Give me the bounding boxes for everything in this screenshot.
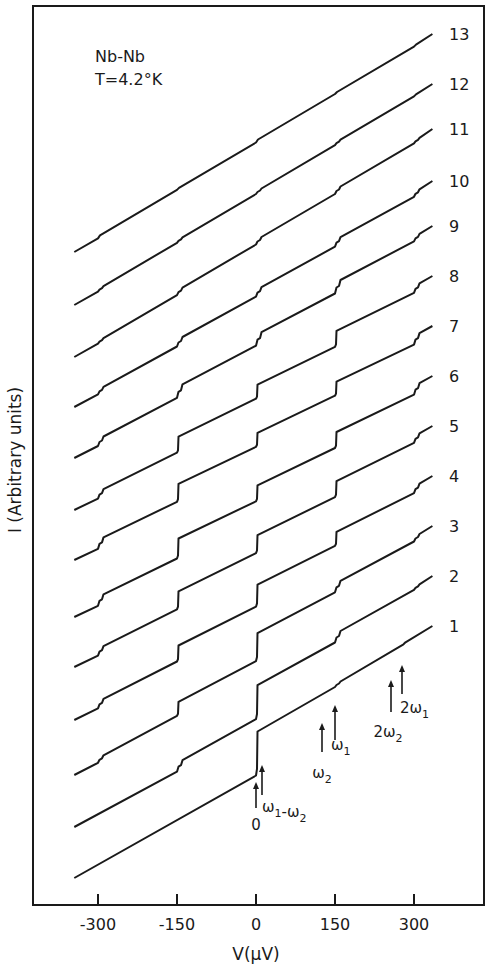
x-tick-label: -150 <box>159 915 195 934</box>
annotation-label: 2ω2 <box>373 723 402 745</box>
annotation-label: ω2 <box>312 764 332 786</box>
y-axis-label: I (Arbitrary units) <box>5 387 25 533</box>
curve-1 <box>74 626 432 878</box>
curve-4 <box>74 476 432 720</box>
curve-6 <box>74 376 432 617</box>
curve-label: 2 <box>449 567 459 586</box>
x-tick-label: 150 <box>320 915 351 934</box>
annotation-label: ω1-ω2 <box>262 798 307 825</box>
chart-title: Nb-Nb <box>95 47 145 66</box>
curve-label: 8 <box>449 267 459 286</box>
annotations: 0ω1-ω2ω2ω12ω22ω1 <box>251 665 429 834</box>
curve-8 <box>74 276 432 510</box>
annotation-label: 0 <box>251 816 261 834</box>
curve-13 <box>74 34 432 252</box>
arrowhead-icon <box>399 665 405 672</box>
x-tick-label: -300 <box>80 915 116 934</box>
chart: -300-1500150300 12345678910111213 0ω1-ω2… <box>0 0 490 968</box>
curve-11 <box>74 129 432 357</box>
curve-2 <box>74 576 432 827</box>
curve-label: 4 <box>449 467 459 486</box>
x-tick-label: 0 <box>251 915 261 934</box>
curve-label: 3 <box>449 517 459 536</box>
curve-label: 12 <box>449 75 469 94</box>
curve-12 <box>74 84 432 305</box>
x-tick-label: 300 <box>399 915 430 934</box>
curve-label: 5 <box>449 417 459 436</box>
curve-label: 1 <box>449 617 459 636</box>
curve-7 <box>74 326 432 560</box>
arrowhead-icon <box>259 765 265 772</box>
chart-subtitle: T=4.2°K <box>94 70 163 89</box>
curve-label: 7 <box>449 317 459 336</box>
annotation-label: 2ω1 <box>400 699 429 721</box>
annotation-label: ω1 <box>331 736 351 758</box>
curve-label: 10 <box>449 172 469 191</box>
curve-5 <box>74 426 432 667</box>
curve-label: 13 <box>449 25 469 44</box>
arrowhead-icon <box>319 723 325 730</box>
curves <box>74 34 432 878</box>
curve-label: 6 <box>449 367 459 386</box>
arrowhead-icon <box>388 680 394 687</box>
curve-labels: 12345678910111213 <box>449 25 469 636</box>
curve-9 <box>74 226 432 458</box>
arrowhead-icon <box>332 705 338 712</box>
curve-label: 11 <box>449 120 469 139</box>
x-axis-label: V(µV) <box>232 944 279 964</box>
x-axis-ticks: -300-1500150300 <box>80 894 429 934</box>
curve-10 <box>74 181 432 407</box>
arrowhead-icon <box>253 782 259 789</box>
curve-label: 9 <box>449 217 459 236</box>
